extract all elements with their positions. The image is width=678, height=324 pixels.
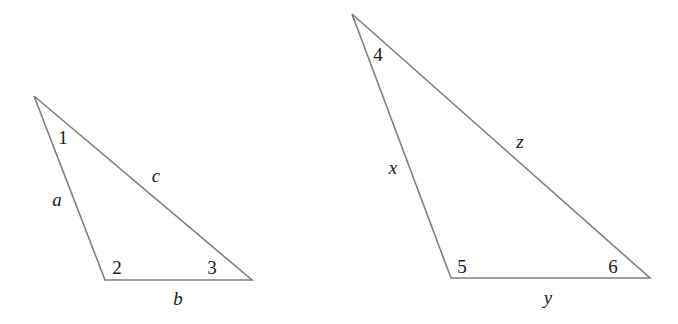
side-label-c-text: c xyxy=(152,166,160,185)
angle-label-6-text: 6 xyxy=(608,257,618,276)
side-label-y-text: y xyxy=(544,288,552,307)
angle-label-4: 4 xyxy=(378,55,388,74)
side-label-z: z xyxy=(520,142,527,161)
side-label-y: y xyxy=(548,298,556,317)
side-label-x-text: x xyxy=(389,158,397,177)
left-triangle-outline xyxy=(34,96,252,280)
side-label-z-text: z xyxy=(516,132,523,151)
side-label-a-text: a xyxy=(52,190,62,209)
angle-label-1-text: 1 xyxy=(58,128,68,147)
side-label-b-text: b xyxy=(173,289,183,308)
side-label-a: a xyxy=(57,200,67,219)
figure-canvas xyxy=(0,0,678,324)
side-label-b: b xyxy=(178,299,188,318)
angle-label-5-text: 5 xyxy=(457,257,467,276)
angle-label-6: 6 xyxy=(613,267,623,286)
angle-label-4-text: 4 xyxy=(373,45,383,64)
side-label-c: c xyxy=(156,176,164,195)
angle-label-1: 1 xyxy=(63,138,73,157)
angle-label-2-text: 2 xyxy=(112,258,122,277)
angle-label-3: 3 xyxy=(212,268,222,287)
side-label-x: x xyxy=(393,168,401,187)
geometry-diagram: 1 2 3 a c b 4 5 6 x z y xyxy=(0,0,678,324)
angle-label-2: 2 xyxy=(117,268,127,287)
angle-label-5: 5 xyxy=(462,267,472,286)
angle-label-3-text: 3 xyxy=(207,258,217,277)
right-triangle-outline xyxy=(352,14,650,278)
